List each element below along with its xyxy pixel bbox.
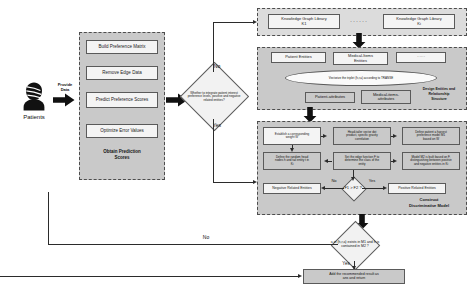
- compare-no-arrowhead: [321, 186, 325, 190]
- provide-data-arrow: [53, 93, 75, 111]
- edge-function-box[interactable]: Set the edge function F to determine the…: [333, 152, 391, 170]
- result-feedback-hline: [0, 276, 299, 277]
- define-head-tail-nodes-box[interactable]: Define the random head nodes h and tail …: [263, 152, 321, 170]
- final-no-vline: [48, 192, 49, 245]
- col1-arrowhead: [290, 148, 294, 152]
- head-tailer-dot-product-box[interactable]: Head-tailer vector dot product, specific…: [333, 127, 391, 145]
- head-tailer-line3: correlation: [355, 138, 369, 141]
- design-entities-label-line3: Structure: [414, 98, 464, 102]
- step-predict-preference-scores[interactable]: Predict Preference Scores: [86, 92, 158, 108]
- compare-yes-line: [362, 188, 384, 189]
- compare-no-label: No: [325, 178, 343, 183]
- establish-weight-line2: weight W: [286, 136, 298, 139]
- patient-person-icon: [18, 80, 50, 112]
- medical-items-line2: Entities: [354, 59, 367, 63]
- negative-related-entities-box[interactable]: Negative Related Entities: [263, 183, 321, 194]
- patient-preference-model-m1-box[interactable]: Define patient a harvest preference mode…: [402, 127, 460, 145]
- compare-yes-label: Yes: [363, 178, 381, 183]
- model-m2-box[interactable]: Model M2 is built based on F, distinguis…: [402, 152, 460, 170]
- discriminative-label-line2: Discriminative Model: [391, 204, 467, 208]
- result-box[interactable]: Add the recommended result as ans and re…: [303, 269, 405, 284]
- result-line2: ans and return: [343, 277, 366, 281]
- step-remove-edge-data[interactable]: Remove Edge Data: [86, 66, 158, 80]
- patient-entities-box[interactable]: Patient Entities: [271, 52, 326, 63]
- provide-data-label-line2: Data: [52, 87, 78, 92]
- final-decision-text: a in (h,r,a) exists in M1 and h is conta…: [320, 239, 390, 251]
- integrate-no-label: No: [207, 63, 227, 69]
- flowchart-canvas: Patients Provide Data Build Preference M…: [0, 0, 474, 289]
- medical-items-attributes-box[interactable]: Medical-items- attributes: [361, 90, 411, 104]
- pref-model-line3: based on W: [423, 138, 439, 141]
- positive-related-entities-box[interactable]: Positive Related Entities: [388, 183, 446, 194]
- patient-attributes-box[interactable]: Patient-attributes: [305, 92, 355, 103]
- compare-no-line: [325, 188, 344, 189]
- step-build-preference-matrix[interactable]: Build Preference Matrix: [86, 40, 158, 54]
- vectorize-triplet-ellipse[interactable]: Vectorize the triplet (h,r,a) according …: [285, 70, 437, 86]
- patients-label: Patients: [10, 114, 58, 120]
- medical-items-entities-box[interactable]: Medical-Items Entities: [333, 52, 388, 65]
- integrate-yes-label: Yes: [207, 122, 227, 128]
- edge-function-line3: entity: [358, 163, 365, 166]
- row1-line-1: [321, 136, 324, 137]
- kg-ellipsis: ······: [350, 18, 368, 24]
- yes-branch-vline: [213, 119, 214, 182]
- no-branch-vline: [213, 22, 214, 72]
- row2-line-1: [328, 161, 332, 162]
- model-m2-line3: and negative entities in Ki: [414, 163, 448, 166]
- prediction-group-label-line2: Scores: [86, 156, 158, 161]
- kg-library-1-line2: K1: [302, 22, 307, 26]
- kg-library-2-line2: Ki: [417, 22, 421, 26]
- final-no-label: No: [196, 234, 216, 240]
- discriminative-label-line1: Construct: [395, 198, 463, 202]
- final-decision-line2: contained in M2 ?: [341, 245, 369, 249]
- medical-attr-line2: attributes: [378, 97, 394, 101]
- kg-library-box-1[interactable]: Knowledge Graph Library K1: [268, 14, 340, 29]
- no-branch-hline: [213, 22, 255, 23]
- final-no-hline: [48, 244, 338, 245]
- result-feedback-arrowhead: [298, 274, 302, 278]
- step-optimize-error-values[interactable]: Optimize Error Values: [86, 124, 158, 138]
- compare-yes-arrowhead: [383, 186, 387, 190]
- head-tail-nodes-line3: Ki: [291, 163, 294, 166]
- row2-line-2: [391, 161, 394, 162]
- entities-ellipsis-box: ······: [396, 52, 446, 63]
- edge-fn-to-compare-arrowhead: [351, 177, 355, 181]
- establish-weight-box[interactable]: Establish a corresponding weight W: [263, 127, 321, 145]
- kg-library-box-2[interactable]: Knowledge Graph Library Ki: [383, 14, 455, 29]
- yes-branch-hline: [213, 182, 255, 183]
- row1-line-2: [391, 136, 394, 137]
- integrate-decision-text: Whether to integrate patient interest pr…: [183, 88, 245, 106]
